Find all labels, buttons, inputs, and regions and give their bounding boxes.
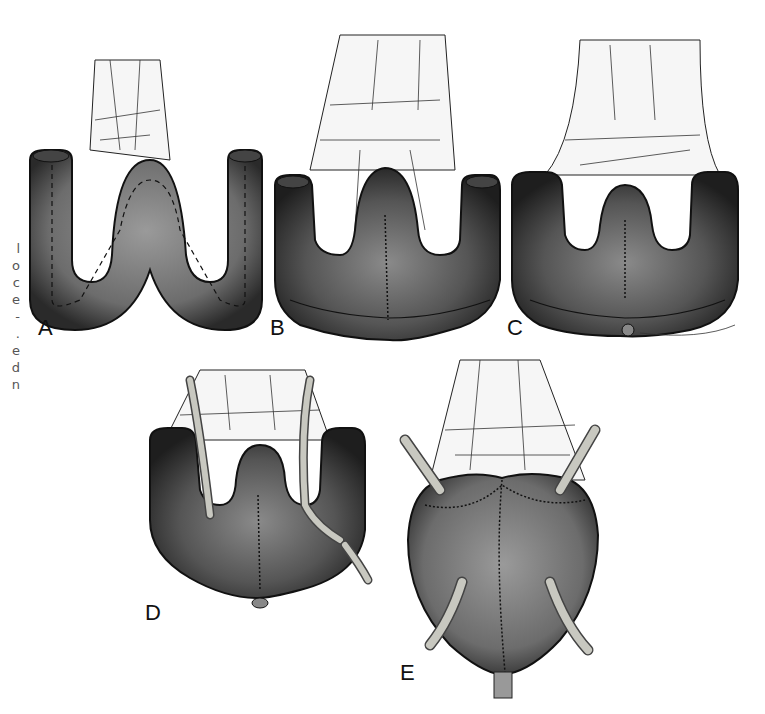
panel-b bbox=[275, 35, 500, 340]
panel-label-e: E bbox=[400, 660, 415, 686]
panel-label-d: D bbox=[145, 600, 161, 626]
panel-label-b: B bbox=[270, 315, 285, 341]
panel-label-c: C bbox=[507, 315, 523, 341]
panel-c bbox=[512, 40, 738, 336]
panel-a bbox=[30, 60, 262, 330]
panel-label-a: A bbox=[38, 315, 53, 341]
illustration bbox=[0, 0, 765, 714]
panel-d bbox=[150, 370, 368, 608]
panel-e bbox=[405, 360, 598, 698]
